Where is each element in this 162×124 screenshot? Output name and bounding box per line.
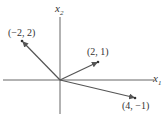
- vector-arrow-4-neg1: [60, 80, 134, 98]
- vector-diagram: x1 x2 (−2, 2) (2, 1) (4, −1): [0, 0, 162, 124]
- x2-axis-label: x2: [54, 2, 64, 17]
- label-point-neg2-2: (−2, 2): [8, 27, 35, 39]
- x1-axis-label: x1: [152, 72, 161, 87]
- point-4-neg1: [134, 97, 137, 100]
- point-2-1: [97, 61, 100, 64]
- vector-arrow-neg2-2: [23, 42, 60, 80]
- vector-arrow-2-1: [60, 63, 97, 81]
- label-point-2-1: (2, 1): [87, 46, 109, 58]
- point-neg2-2: [21, 40, 24, 43]
- label-point-4-neg1: (4, −1): [122, 100, 149, 112]
